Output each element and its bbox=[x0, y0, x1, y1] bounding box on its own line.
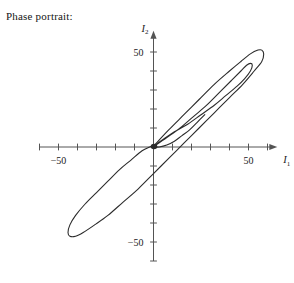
x-axis-arrow bbox=[269, 144, 277, 150]
axis-tick-label: 50 bbox=[134, 47, 144, 58]
x-axis-name: I1 bbox=[282, 154, 291, 168]
phase-portrait-plot: −505050−50I1I2 bbox=[0, 0, 294, 283]
axis-tick-label: −50 bbox=[51, 155, 67, 166]
phase-portrait-figure: Phase portrait: −505050−50I1I2 bbox=[0, 0, 294, 283]
axis-tick-label: 50 bbox=[244, 155, 254, 166]
orbit-curve bbox=[153, 63, 252, 146]
orbit-curves-group bbox=[68, 50, 264, 237]
y-axis-arrow bbox=[150, 31, 156, 39]
y-axis-name: I2 bbox=[141, 23, 150, 37]
origin-marker bbox=[151, 144, 158, 150]
axis-tick-label: −50 bbox=[128, 237, 144, 248]
axes-group bbox=[40, 31, 278, 261]
